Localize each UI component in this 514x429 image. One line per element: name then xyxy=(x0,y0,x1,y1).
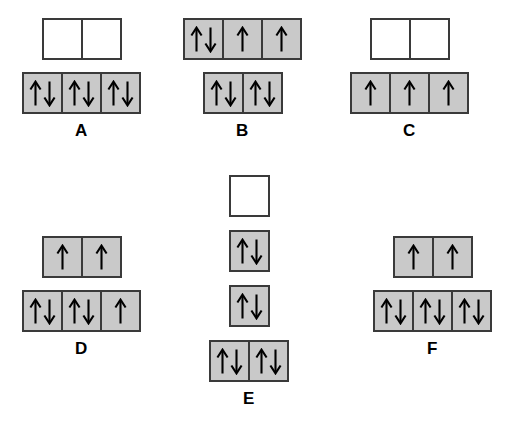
orbital-box xyxy=(393,236,434,278)
orbital-row xyxy=(370,18,450,60)
spin-up-arrow-icon xyxy=(236,26,249,53)
electron-arrows xyxy=(114,298,127,325)
orbital-box xyxy=(183,18,224,60)
spin-down-arrow-icon xyxy=(433,298,446,325)
orbital-box xyxy=(373,290,414,332)
orbital-box xyxy=(242,72,283,114)
electron-arrows xyxy=(236,293,263,320)
electron-arrows xyxy=(95,244,108,271)
orbital-box xyxy=(412,290,453,332)
electron-arrows xyxy=(236,26,249,53)
spin-down-arrow-icon xyxy=(82,298,95,325)
electron-arrows xyxy=(210,80,237,107)
orbital-row xyxy=(393,236,473,278)
spin-down-arrow-icon xyxy=(250,238,263,265)
spin-up-arrow-icon xyxy=(275,26,288,53)
spin-down-arrow-icon xyxy=(82,80,95,107)
orbital-box xyxy=(203,72,244,114)
spin-up-arrow-icon xyxy=(255,348,268,375)
electron-arrows xyxy=(29,298,56,325)
orbital-box xyxy=(100,290,141,332)
electron-arrows xyxy=(442,80,455,107)
electron-arrows xyxy=(56,244,69,271)
orbital-row xyxy=(350,72,469,114)
orbital-box xyxy=(81,18,122,60)
diagram-label-b: B xyxy=(236,121,249,141)
electron-arrows xyxy=(380,298,407,325)
spin-up-arrow-icon xyxy=(107,80,120,107)
orbital-diagram-d: D xyxy=(22,236,141,359)
spin-down-arrow-icon xyxy=(204,26,217,53)
electron-arrows xyxy=(255,348,282,375)
diagram-label-f: F xyxy=(427,339,438,359)
orbital-box xyxy=(389,72,430,114)
orbital-row xyxy=(183,18,302,60)
orbital-box xyxy=(229,230,270,272)
orbital-diagram-e: E xyxy=(209,175,289,409)
spin-down-arrow-icon xyxy=(472,298,485,325)
orbital-box xyxy=(100,72,141,114)
orbital-box xyxy=(451,290,492,332)
orbital-diagram-figure: A B C D E F xyxy=(0,0,514,429)
orbital-box xyxy=(22,72,63,114)
spin-down-arrow-icon xyxy=(121,80,134,107)
orbital-box xyxy=(222,18,263,60)
orbital-diagram-b: B xyxy=(183,18,302,141)
orbital-diagram-a: A xyxy=(22,18,141,141)
orbital-box xyxy=(61,72,102,114)
orbital-row xyxy=(373,290,492,332)
diagram-label-e: E xyxy=(243,389,255,409)
spin-down-arrow-icon xyxy=(250,293,263,320)
electron-arrows xyxy=(107,80,134,107)
electron-arrows xyxy=(364,80,377,107)
orbital-box xyxy=(42,236,83,278)
orbital-box xyxy=(248,340,289,382)
spin-up-arrow-icon xyxy=(403,80,416,107)
spin-down-arrow-icon xyxy=(43,80,56,107)
electron-arrows xyxy=(29,80,56,107)
orbital-row xyxy=(229,175,270,217)
orbital-row xyxy=(229,230,270,272)
orbital-box xyxy=(42,18,83,60)
spin-up-arrow-icon xyxy=(216,348,229,375)
orbital-row xyxy=(42,18,122,60)
electron-arrows xyxy=(216,348,243,375)
orbital-box xyxy=(81,236,122,278)
spin-down-arrow-icon xyxy=(394,298,407,325)
spin-up-arrow-icon xyxy=(407,244,420,271)
electron-arrows xyxy=(419,298,446,325)
spin-up-arrow-icon xyxy=(364,80,377,107)
orbital-box xyxy=(209,340,250,382)
electron-arrows xyxy=(458,298,485,325)
spin-down-arrow-icon xyxy=(224,80,237,107)
orbital-row xyxy=(42,236,122,278)
electron-arrows xyxy=(446,244,459,271)
spin-up-arrow-icon xyxy=(114,298,127,325)
spin-up-arrow-icon xyxy=(446,244,459,271)
orbital-diagram-f: F xyxy=(373,236,492,359)
orbital-row xyxy=(22,290,141,332)
orbital-row xyxy=(203,72,283,114)
spin-up-arrow-icon xyxy=(236,238,249,265)
spin-up-arrow-icon xyxy=(29,298,42,325)
orbital-box xyxy=(229,175,270,217)
orbital-box xyxy=(261,18,302,60)
orbital-box xyxy=(428,72,469,114)
electron-arrows xyxy=(249,80,276,107)
spin-down-arrow-icon xyxy=(263,80,276,107)
spin-up-arrow-icon xyxy=(380,298,393,325)
orbital-box xyxy=(409,18,450,60)
spin-up-arrow-icon xyxy=(442,80,455,107)
spin-down-arrow-icon xyxy=(230,348,243,375)
spin-up-arrow-icon xyxy=(68,298,81,325)
spin-up-arrow-icon xyxy=(249,80,262,107)
spin-up-arrow-icon xyxy=(236,293,249,320)
spin-up-arrow-icon xyxy=(458,298,471,325)
spin-up-arrow-icon xyxy=(29,80,42,107)
spin-up-arrow-icon xyxy=(95,244,108,271)
orbital-row xyxy=(22,72,141,114)
spin-up-arrow-icon xyxy=(190,26,203,53)
orbital-box xyxy=(22,290,63,332)
electron-arrows xyxy=(275,26,288,53)
electron-arrows xyxy=(68,80,95,107)
